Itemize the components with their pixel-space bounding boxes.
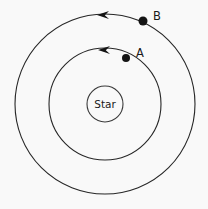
orbit-diagram: Star B A	[0, 0, 208, 209]
planet-a-marker	[122, 54, 130, 62]
star-label: Star	[94, 98, 116, 110]
planet-b-marker	[139, 17, 148, 26]
inner-direction-arrow-icon	[98, 46, 110, 54]
orbit-diagram-svg: Star B A	[0, 0, 208, 209]
planet-a-label: A	[136, 46, 144, 60]
planet-b-label: B	[153, 9, 161, 23]
outer-direction-arrow-icon	[97, 11, 109, 19]
